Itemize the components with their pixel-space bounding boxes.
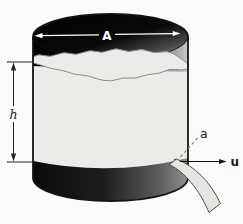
area-label: A [102,29,112,43]
height-arrowhead-down-icon [11,154,16,162]
height-dimension: h [7,62,34,162]
area-arrow-line-left [40,35,99,36]
velocity-label: u [231,155,240,169]
height-arrowhead-up-icon [11,63,16,71]
area-arrow-line-right [115,34,175,35]
height-label: h [9,107,17,122]
velocity-arrowhead-icon [219,159,227,164]
tank-draining-diagram: h A a u [0,0,243,224]
orifice-label: a [200,126,208,141]
diagram-canvas: h A a u [0,0,243,224]
